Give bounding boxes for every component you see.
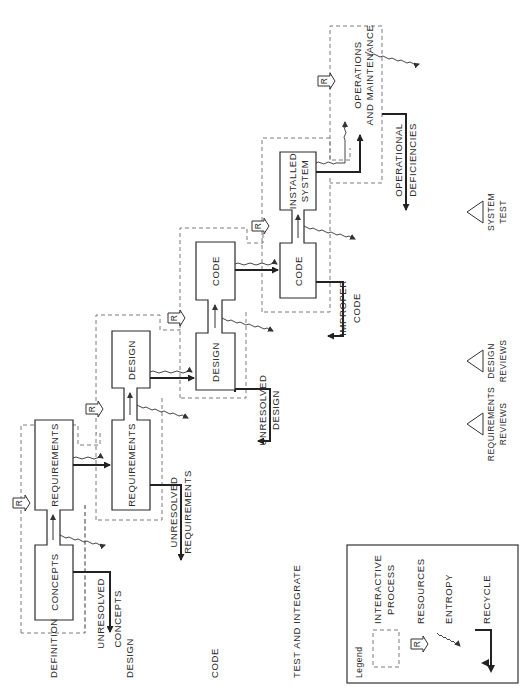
svg-text:R: R [169, 315, 179, 322]
unresolved-requirements-line2: REQUIREMENTS [182, 470, 193, 554]
phase-test-integrate: TEST AND INTEGRATE [291, 565, 302, 678]
process-upper-label: REQUIREMENTS [49, 423, 60, 507]
svg-text:R: R [87, 406, 97, 413]
svg-text:DESIGN: DESIGN [486, 343, 496, 379]
unresolved-design-line1: UNRESOLVED [257, 375, 268, 446]
phase-labels: DEFINITION DESIGN CODE TEST AND INTEGRAT… [48, 565, 302, 678]
milestone-design-reviews: DESIGN REVIEWS [467, 340, 508, 383]
om-label-line1: OPERATIONS [352, 41, 363, 109]
milestone-requirements-reviews: REQUIREMENTS REVIEWS [467, 387, 508, 461]
resource-icon: R [168, 310, 185, 326]
triangle-icon [467, 201, 483, 223]
unresolved-concepts-line1: UNRESOLVED [95, 578, 106, 649]
process-upper-label: CODE [210, 256, 221, 286]
process-requirements-design: DESIGN REQUIREMENTS [112, 331, 150, 510]
improper-code-line1: IMPROPER [337, 280, 348, 335]
svg-text:REVIEWS: REVIEWS [498, 403, 508, 446]
process-lower-label: REQUIREMENTS [126, 423, 137, 507]
phase-code: CODE [209, 648, 220, 678]
resource-icon: R [86, 401, 103, 417]
unresolved-requirements-line1: UNRESOLVED [168, 477, 179, 548]
operational-deficiencies-line2: DEFICIENCIES [407, 123, 418, 197]
legend-label-entropy: ENTROPY [443, 574, 454, 624]
interactive-process-boundaries [21, 26, 382, 633]
svg-text:R: R [412, 641, 422, 648]
svg-text:R: R [253, 223, 263, 230]
process-lower-label: DESIGN [210, 342, 221, 382]
improper-code-line2: CODE [351, 293, 362, 323]
process-design-code: CODE DESIGN [196, 242, 235, 390]
phase-design: DESIGN [124, 638, 135, 678]
triangle-icon [467, 350, 483, 372]
om-label-line2: AND MAINTENANCE [364, 25, 375, 126]
svg-text:REVIEWS: REVIEWS [498, 340, 508, 383]
phase-definition: DEFINITION [48, 618, 59, 678]
legend-label-process: PROCESS [385, 564, 396, 615]
svg-text:REQUIREMENTS: REQUIREMENTS [486, 387, 496, 461]
process-upper-label-line2: SYSTEM [299, 160, 310, 203]
triangle-icon [467, 413, 483, 435]
lifecycle-diagram: REQUIREMENTS CONCEPTS DESIGN REQUIREMENT… [0, 0, 524, 690]
unresolved-design-line2: DESIGN [270, 390, 281, 430]
operational-deficiencies-line1: OPERATIONAL [393, 123, 404, 196]
milestones: REQUIREMENTS REVIEWS DESIGN REVIEWS SYST… [467, 193, 508, 461]
process-code-installed-system: INSTALLED SYSTEM CODE [280, 152, 316, 298]
process-concepts-requirements: REQUIREMENTS CONCEPTS [35, 420, 73, 620]
svg-text:TEST: TEST [498, 200, 508, 224]
unresolved-concepts-line2: CONCEPTS [112, 590, 123, 648]
legend-label-recycle: RECYCLE [481, 575, 492, 624]
svg-text:SYSTEM: SYSTEM [486, 193, 496, 231]
process-upper-label-line1: INSTALLED [287, 153, 298, 209]
svg-text:R: R [14, 500, 24, 507]
process-lower-label: CONCEPTS [49, 553, 60, 611]
milestone-system-test: SYSTEM TEST [467, 193, 508, 231]
resource-icon: R [252, 218, 269, 234]
process-lower-label: CODE [293, 256, 304, 286]
resource-icon: R [318, 73, 335, 89]
legend-title: Legend [354, 647, 364, 678]
process-operations-maintenance: OPERATIONS AND MAINTENANCE [352, 25, 375, 126]
svg-text:R: R [319, 78, 329, 85]
process-upper-label: DESIGN [126, 340, 137, 380]
legend-label-resources: RESOURCES [415, 558, 426, 624]
legend-label-interactive: INTERACTIVE [372, 555, 383, 624]
legend: Legend INTERACTIVE PROCESS R RESOURCES E… [347, 545, 518, 683]
